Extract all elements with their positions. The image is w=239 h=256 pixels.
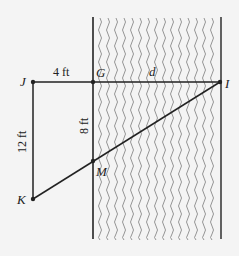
label-J: J [20, 74, 27, 89]
measure-GM: 8 ft [77, 117, 91, 134]
label-G: G [96, 65, 106, 80]
label-K: K [16, 192, 27, 207]
measure-JK: 12 ft [15, 130, 29, 153]
point-K [31, 197, 35, 201]
segment-KI [33, 82, 220, 199]
point-G [91, 80, 95, 84]
river-waves [99, 18, 214, 240]
label-M: M [95, 164, 108, 179]
label-I: I [224, 76, 230, 91]
measure-GI: d [149, 64, 156, 79]
point-I [218, 80, 222, 84]
geometry-diagram: J G I K M 4 ft d 12 ft 8 ft [0, 0, 239, 256]
point-M [91, 159, 95, 163]
point-J [31, 80, 35, 84]
measure-JG: 4 ft [53, 65, 70, 79]
